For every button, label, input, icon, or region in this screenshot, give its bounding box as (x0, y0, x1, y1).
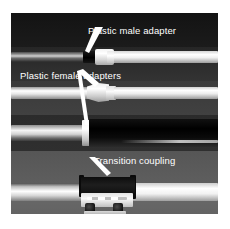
transition-coupling-foot (84, 211, 126, 214)
pipe-row-4-right-segment (132, 183, 218, 201)
pipe-row-3-left-segment (11, 125, 85, 141)
annotation-label-plastic-female-adapters: Plastic female adapters (20, 70, 121, 81)
pipe-row-2-right-segment (114, 87, 218, 99)
pipe-fittings-photograph: Plastic male adapter Plastic female adap… (11, 13, 218, 214)
annotation-label-transition-coupling: Transition coupling (94, 155, 175, 166)
pipe-row-1-left-segment (11, 52, 85, 62)
annotation-label-plastic-male-adapter: Plastic male adapter (88, 25, 176, 36)
pipe-row-2-left-segment (11, 87, 91, 99)
pipe-row-1-right-segment (114, 51, 218, 63)
pipe-row-3-highlight (121, 140, 218, 143)
pipe-row-4-left-segment (11, 183, 83, 201)
transition-coupling-screw-row (87, 197, 127, 200)
figure-root: Plastic male adapter Plastic female adap… (0, 0, 230, 229)
transition-coupling-sleeve (81, 177, 135, 193)
